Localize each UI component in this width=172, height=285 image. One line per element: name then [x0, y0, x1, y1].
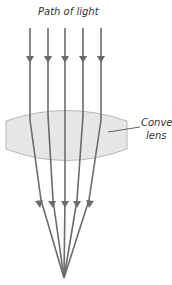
arrow-down-icon	[48, 201, 56, 208]
lens-label: Convex lens	[141, 116, 172, 142]
lens-label-line1: Convex	[141, 116, 172, 129]
arrow-down-icon	[73, 201, 81, 208]
convex-lens	[6, 111, 127, 161]
arrow-down-icon	[26, 56, 34, 63]
arrow-down-icon	[97, 56, 105, 63]
arrow-down-icon	[44, 56, 52, 63]
arrow-down-icon	[61, 201, 69, 208]
convex-lens-diagram	[0, 0, 172, 285]
lens-label-line2: lens	[141, 129, 172, 142]
arrow-down-icon	[79, 56, 87, 63]
arrow-down-icon	[61, 56, 69, 63]
